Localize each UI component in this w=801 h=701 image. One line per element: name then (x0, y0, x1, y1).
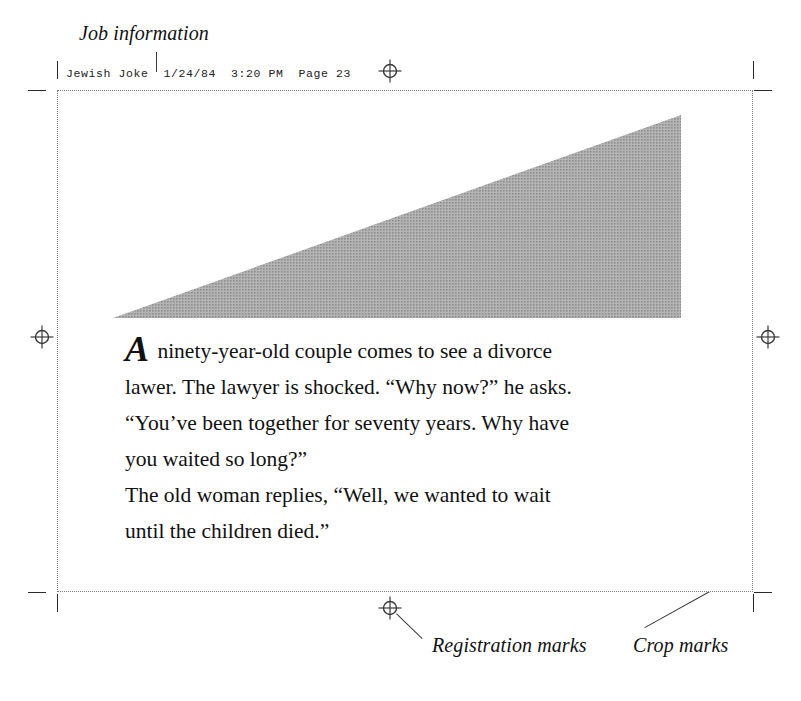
triangle-artwork (113, 115, 681, 318)
page-boundary-dotted: A ninety-year-old couple comes to see a … (57, 90, 753, 592)
body-copy: A ninety-year-old couple comes to see a … (125, 331, 695, 549)
registration-mark-bottom (377, 595, 403, 621)
crop-mark-bottom-left-vertical (57, 594, 58, 612)
body-line-4: you waited so long?” (125, 441, 695, 477)
printers-marks-illustration: Job information Registration marks Crop … (0, 0, 801, 701)
registration-mark-left (29, 324, 55, 350)
crop-mark-bottom-right-horizontal (754, 592, 772, 593)
job-information-slug: Jewish Joke 1/24/84 3:20 PM Page 23 (66, 67, 351, 80)
leader-line-crop-marks (645, 589, 714, 628)
crop-mark-top-left-horizontal (28, 90, 46, 91)
body-line-1-rest: ninety-year-old couple comes to see a di… (152, 339, 552, 363)
registration-mark-right (755, 324, 781, 350)
body-line-6: until the children died.” (125, 513, 695, 549)
body-line-3: “You’ve been together for seventy years.… (125, 405, 695, 441)
crop-mark-bottom-left-horizontal (28, 592, 46, 593)
crop-mark-top-right-horizontal (754, 90, 772, 91)
crop-mark-top-left-vertical (57, 61, 58, 79)
label-registration-marks: Registration marks (432, 634, 587, 657)
crop-mark-bottom-right-vertical (753, 594, 754, 612)
crop-mark-top-right-vertical (753, 61, 754, 79)
label-crop-marks: Crop marks (633, 634, 728, 657)
body-line-5: The old woman replies, “Well, we wanted … (125, 477, 695, 513)
body-line-1: A ninety-year-old couple comes to see a … (125, 331, 695, 369)
body-line-2: lawer. The lawyer is shocked. “Why now?”… (125, 369, 695, 405)
registration-mark-top (377, 58, 403, 84)
drop-cap: A (125, 329, 152, 369)
label-job-information: Job information (79, 22, 209, 45)
